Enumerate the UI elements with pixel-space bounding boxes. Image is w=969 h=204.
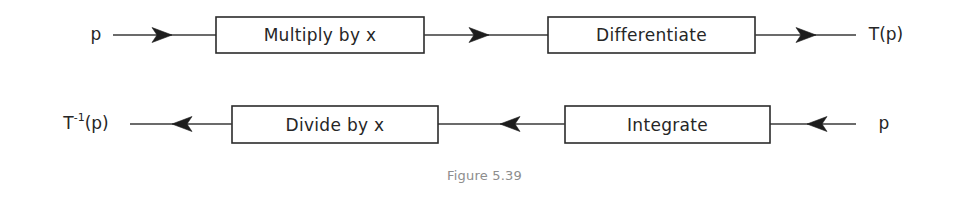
terminal-label-top-output: T(p) (868, 24, 903, 44)
terminal-label-bottom-input: p (879, 113, 890, 133)
terminal-label-bottom-output-superscript: -1 (74, 111, 85, 124)
terminal-label-bottom-output-arg: (p) (85, 113, 109, 133)
terminal-label-bottom-output: T-1(p) (62, 111, 108, 133)
process-box-divide-by-x-label: Divide by x (286, 115, 385, 135)
terminal-label-top-input: p (91, 24, 102, 44)
figure-caption: Figure 5.39 (0, 168, 969, 183)
process-box-multiply-by-x-label: Multiply by x (264, 25, 377, 45)
process-box-differentiate-label: Differentiate (596, 25, 707, 45)
process-box-integrate-label: Integrate (627, 115, 708, 135)
terminal-label-bottom-output-base: T (62, 113, 74, 133)
figure-5-39: Multiply by x Differentiate p T(p) Integ… (0, 0, 969, 204)
